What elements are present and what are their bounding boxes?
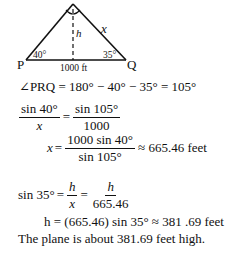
side-label-x: x bbox=[101, 22, 107, 35]
denominator: 665.46 bbox=[91, 196, 131, 211]
fraction-x-solution: 1000 sin 40° sin 105° bbox=[65, 133, 135, 163]
denominator: 1000 bbox=[82, 118, 112, 133]
equals-sign: = bbox=[57, 187, 64, 203]
sin35-term: sin 35° bbox=[18, 187, 55, 203]
height-label-h: h bbox=[76, 28, 82, 39]
vertex-label-p: P bbox=[17, 58, 24, 71]
fraction-h-over-x: h x bbox=[67, 180, 78, 210]
law-of-sines: sin 40° x = sin 105° 1000 bbox=[18, 102, 121, 132]
equals-sign: = bbox=[63, 109, 70, 125]
numerator: h bbox=[105, 180, 116, 196]
equals-sign: = bbox=[55, 140, 62, 156]
fraction-sin40-over-x: sin 40° x bbox=[19, 102, 60, 132]
fraction-h-over-665: h 665.46 bbox=[91, 180, 131, 210]
sin35-equation: sin 35° = h x = h 665.46 bbox=[18, 180, 132, 210]
equals-sign: = bbox=[80, 187, 87, 203]
angle-label-q: 35° bbox=[103, 51, 116, 61]
x-result: ≈ 665.46 feet bbox=[138, 140, 207, 156]
solve-x: x = 1000 sin 40° sin 105° ≈ 665.46 feet bbox=[47, 133, 207, 163]
base-label: 1000 ft bbox=[60, 64, 87, 74]
x-variable: x bbox=[47, 140, 53, 156]
denominator: sin 105° bbox=[77, 149, 124, 164]
triangle-diagram bbox=[0, 0, 225, 80]
denominator: x bbox=[67, 196, 77, 211]
numerator: h bbox=[67, 180, 78, 196]
angle-label-p: 40° bbox=[33, 51, 46, 61]
vertex-label-q: Q bbox=[127, 58, 136, 71]
conclusion: The plane is about 381.69 feet high. bbox=[18, 232, 205, 245]
numerator: sin 40° bbox=[19, 102, 60, 118]
angle-equation: ∠PRQ = 180° − 40° − 35° = 105° bbox=[19, 80, 196, 93]
fraction-sin105-over-1000: sin 105° 1000 bbox=[73, 102, 120, 132]
numerator: 1000 sin 40° bbox=[65, 133, 135, 149]
denominator: x bbox=[34, 118, 44, 133]
solve-h: h = (665.46) sin 35° ≈ 381 .69 feet bbox=[44, 215, 224, 228]
numerator: sin 105° bbox=[73, 102, 120, 118]
